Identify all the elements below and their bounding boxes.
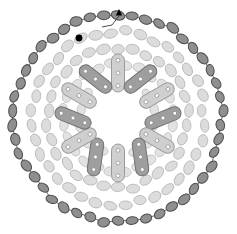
radial-rod-dot (138, 155, 142, 159)
molecular-ring-diagram (0, 0, 237, 234)
mid-subunit-ellipse (197, 104, 206, 116)
radial-rod-dot (137, 142, 141, 146)
radial-rod-dot (92, 167, 96, 171)
radial-rod-dot (93, 155, 97, 159)
mid-subunit-ellipse (134, 195, 146, 204)
mid-subunit-ellipse (198, 134, 208, 147)
radial-rod-dot (116, 71, 120, 75)
figure-canvas (0, 0, 237, 234)
outer-chain-subunit (126, 12, 139, 21)
radial-rod-dot (140, 167, 144, 171)
radial-rod-dot (116, 84, 120, 88)
mid-subunit-ellipse (119, 201, 132, 210)
mid-subunit-ellipse-b (126, 184, 140, 193)
filled-dot-marker (76, 35, 83, 42)
mid-subunit-ellipse-b (44, 104, 54, 118)
radial-rod-dot (95, 142, 99, 146)
radial-rod-dot (116, 161, 120, 165)
mid-subunit-ellipse-b (97, 181, 111, 191)
mid-subunit-ellipse (26, 104, 36, 117)
radial-rod (112, 54, 125, 92)
radial-rod-dot (116, 58, 120, 62)
outer-chain-subunit (8, 104, 17, 118)
radial-rod-dot (116, 148, 120, 152)
outer-chain-subunit (98, 11, 111, 20)
radial-rod (112, 144, 125, 182)
mid-subunit-ellipse-b (41, 118, 51, 132)
radial-rod-dot (116, 174, 120, 178)
